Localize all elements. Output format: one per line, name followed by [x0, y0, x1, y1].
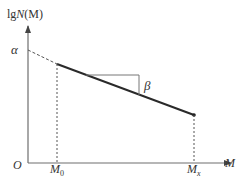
diagram-canvas: lgN(M) α β O M0 Mx M [0, 0, 239, 186]
x-tick-mx: Mx [186, 162, 201, 178]
intercept-dashed-line [28, 50, 57, 64]
x-axis-label: M [224, 156, 236, 170]
intercept-label: α [11, 42, 19, 57]
slope-label: β [143, 78, 151, 93]
origin-label: O [13, 158, 22, 172]
y-axis-label: lgN(M) [7, 7, 43, 21]
x-tick-m0: M0 [49, 162, 64, 178]
relation-line [57, 64, 194, 115]
